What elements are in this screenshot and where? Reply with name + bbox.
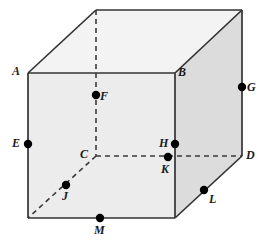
point-marker-J — [62, 181, 70, 189]
point-marker-E — [24, 140, 32, 148]
point-marker-H — [171, 140, 179, 148]
point-label-F: F — [100, 90, 108, 102]
point-label-B: B — [178, 66, 186, 78]
cube-diagram-svg — [0, 0, 270, 244]
point-label-L: L — [209, 193, 216, 205]
point-label-D: D — [246, 149, 255, 161]
point-marker-L — [200, 186, 208, 194]
cube-figure: A B C D E F G H J K L M — [0, 0, 270, 244]
point-label-K: K — [161, 163, 169, 175]
point-label-E: E — [12, 137, 20, 149]
point-label-G: G — [247, 81, 256, 93]
point-label-J: J — [62, 190, 68, 202]
point-label-A: A — [12, 65, 20, 77]
point-label-H: H — [159, 137, 168, 149]
point-label-C: C — [80, 148, 88, 160]
point-marker-M — [96, 214, 104, 222]
point-marker-F — [92, 91, 100, 99]
point-marker-G — [238, 83, 246, 91]
point-marker-K — [164, 153, 172, 161]
point-label-M: M — [94, 224, 105, 236]
